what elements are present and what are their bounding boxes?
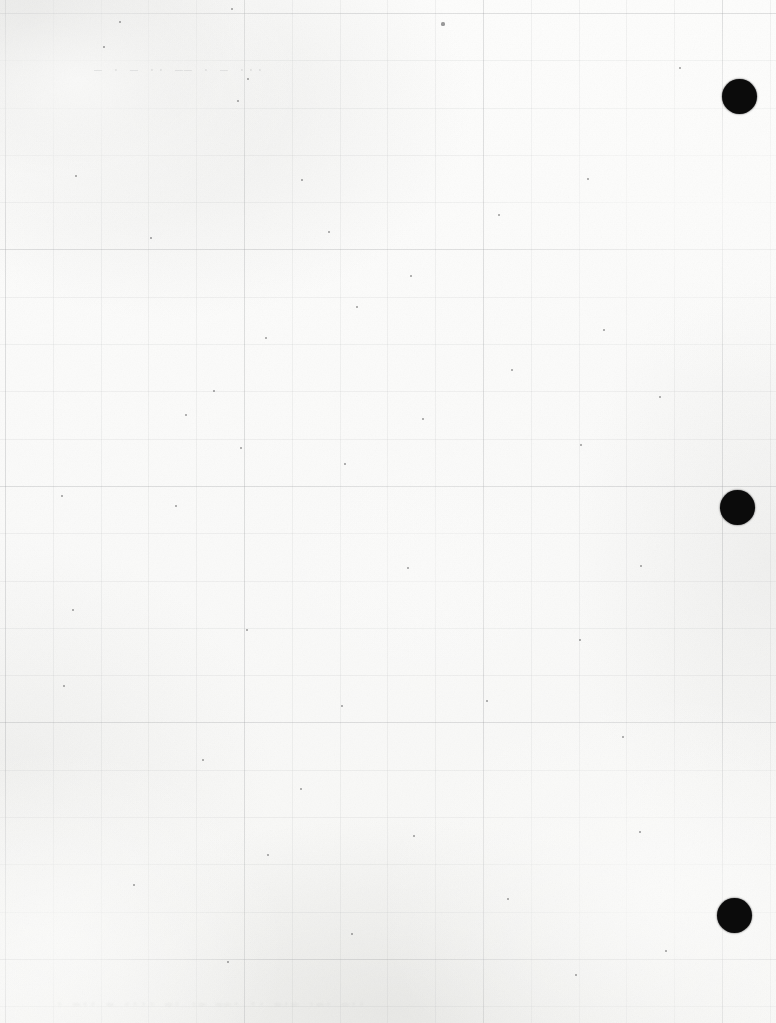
dust-speck [603, 329, 605, 331]
dust-speck [587, 178, 589, 180]
punch-dot-bottom [717, 898, 752, 933]
dust-speck [422, 418, 425, 421]
dust-speck [240, 447, 242, 449]
ghost-header-text: — · — ·· —— · — ··· [94, 63, 265, 78]
dust-speck [227, 961, 229, 963]
dust-speck [237, 100, 239, 102]
punch-dot-middle [720, 490, 755, 525]
dust-speck [351, 933, 353, 935]
dust-speck [72, 609, 74, 611]
dust-speck [622, 736, 624, 738]
dust-speck [265, 337, 267, 339]
dust-speck [300, 788, 302, 790]
dust-speck [679, 67, 681, 69]
dust-speck [231, 8, 234, 11]
grid-major-lines [0, 0, 776, 1023]
dust-speck [413, 835, 415, 837]
dust-speck [580, 444, 582, 446]
dust-speck [665, 950, 667, 952]
dust-speck [498, 214, 500, 216]
dust-speck [328, 231, 330, 233]
dust-speck [267, 854, 269, 856]
dust-speck [507, 898, 509, 900]
dust-speck [341, 705, 343, 707]
dust-speck [133, 884, 135, 886]
dust-speck [356, 306, 358, 308]
dust-speck [119, 21, 121, 23]
dust-speck [579, 639, 581, 641]
dust-speck [103, 46, 105, 48]
punch-dot-top [722, 79, 757, 114]
dust-speck [247, 78, 249, 80]
grid-fade-mask [0, 0, 776, 1023]
dust-speck [575, 974, 577, 976]
dust-speck [659, 396, 661, 398]
dust-speck [150, 237, 152, 239]
ghost-footer-text: · —·· — ···· —· ·— ——· ·· —·— ·—· —·· [56, 998, 367, 1012]
dust-speck [441, 22, 444, 25]
dust-speck [175, 505, 177, 507]
grid-minor-lines [0, 0, 776, 1023]
dust-speck [407, 567, 409, 569]
dust-speck [511, 369, 513, 371]
scanned-page: — · — ·· —— · — ··· · —·· — ···· —· ·— —… [0, 0, 776, 1023]
dust-speck [202, 759, 204, 761]
dust-speck [344, 463, 346, 465]
paper-grain-texture [0, 0, 776, 1023]
dust-speck [63, 685, 66, 688]
dust-speck [61, 495, 63, 497]
dust-speck [486, 700, 488, 702]
dust-speck [75, 175, 78, 178]
dust-speck [639, 831, 641, 833]
dust-speck [246, 629, 248, 631]
dust-speck [410, 275, 412, 277]
dust-speck [213, 390, 215, 392]
dust-speck [640, 565, 642, 567]
dust-speck [301, 179, 303, 181]
dust-speck [185, 414, 188, 417]
